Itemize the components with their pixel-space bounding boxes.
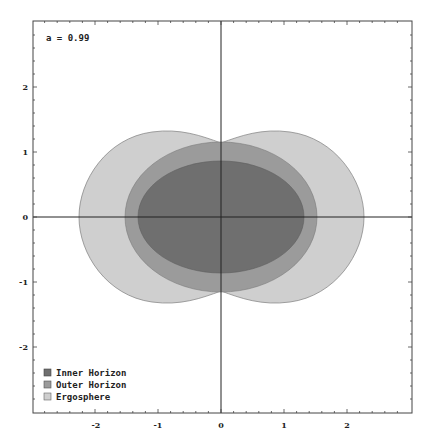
y-tick-labels: 2 1 0 -1 -2	[19, 82, 28, 352]
legend-swatch-inner-horizon	[44, 369, 51, 376]
x-tick-label: -1	[154, 420, 163, 430]
legend-label-outer-horizon: Outer Horizon	[56, 380, 126, 390]
x-tick-label: 0	[218, 420, 224, 430]
y-tick-label: -2	[19, 342, 28, 352]
x-tick-label: 2	[344, 420, 350, 430]
x-tick-labels: -2 -1 0 1 2	[92, 420, 350, 430]
legend: Inner Horizon Outer Horizon Ergosphere	[44, 368, 126, 402]
legend-swatch-outer-horizon	[44, 381, 51, 388]
spin-parameter-annotation: a = 0.99	[46, 33, 89, 43]
legend-label-inner-horizon: Inner Horizon	[56, 368, 126, 378]
x-tick-label: -2	[92, 420, 101, 430]
x-tick-label: 1	[281, 420, 287, 430]
legend-swatch-ergosphere	[44, 393, 51, 400]
y-tick-label: 2	[22, 82, 28, 92]
y-tick-label: -1	[19, 277, 28, 287]
y-tick-label: 1	[22, 147, 28, 157]
kerr-black-hole-plot: -2 -1 0 1 2 2 1 0 -1 -2 a = 0.99 Inner H…	[0, 0, 428, 441]
y-tick-label: 0	[22, 212, 28, 222]
legend-label-ergosphere: Ergosphere	[56, 392, 111, 402]
